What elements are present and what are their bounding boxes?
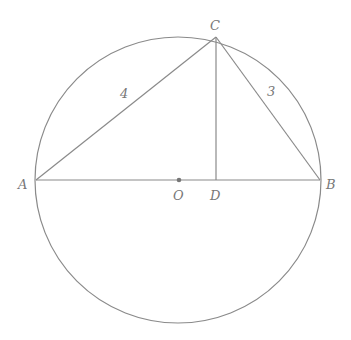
segment-ac [36, 37, 216, 180]
diagram-canvas: A B C D O 4 3 [0, 0, 351, 340]
geometry-diagram: A B C D O 4 3 [0, 0, 351, 340]
label-a: A [17, 177, 27, 192]
segment-cb [216, 37, 320, 180]
length-label-cb: 3 [267, 84, 275, 99]
length-label-ac: 4 [119, 86, 128, 101]
label-d: D [209, 188, 221, 203]
label-o: O [173, 188, 184, 203]
center-point-o [177, 178, 182, 183]
label-b: B [325, 177, 336, 192]
label-c: C [210, 18, 220, 33]
